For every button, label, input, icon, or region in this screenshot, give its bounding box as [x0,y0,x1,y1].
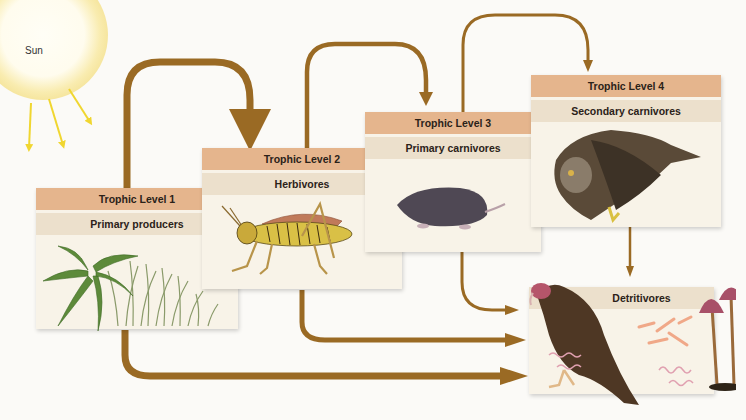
arrow-l3-to-detritivores [462,252,508,310]
mole-illustration [365,160,541,250]
trophic-level-4-panel: Trophic Level 4 Secondary carnivores [531,75,721,227]
trophic-level-label: Trophic Level 4 [531,75,721,97]
detritivores-panel: Detritivores [529,287,714,394]
owl-illustration [531,125,721,225]
trophic-role-label: Primary carnivores [365,137,541,159]
detritivores-illustration [519,275,736,415]
trophic-role-label: Secondary carnivores [531,100,721,122]
arrow-l2-to-detritivores [302,290,510,340]
trophic-level-label: Trophic Level 3 [365,112,541,134]
trophic-level-3-panel: Trophic Level 3 Primary carnivores [365,112,541,252]
sun-rays [29,89,90,148]
mushrooms [699,288,736,392]
